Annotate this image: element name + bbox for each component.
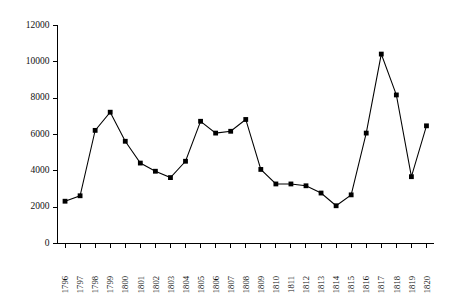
data-point-marker bbox=[379, 52, 384, 57]
x-tick-label: 1804 bbox=[181, 275, 191, 293]
x-tick-label: 1812 bbox=[301, 276, 311, 293]
data-point-marker bbox=[424, 123, 429, 128]
data-point-marker bbox=[123, 139, 128, 144]
series-group bbox=[63, 52, 429, 208]
y-tick-label: 2000 bbox=[31, 201, 50, 211]
x-tick-label: 1819 bbox=[407, 276, 417, 293]
x-tick-label: 1815 bbox=[346, 276, 356, 293]
x-tick-label: 1799 bbox=[105, 276, 115, 293]
x-axis-group: 1796179717981799180018011802180318041805… bbox=[58, 243, 435, 293]
y-tick-label: 4000 bbox=[31, 165, 50, 175]
data-point-marker bbox=[304, 183, 309, 188]
x-tick-group: 1796179717981799180018011802180318041805… bbox=[60, 243, 431, 293]
x-tick-label: 1807 bbox=[226, 275, 236, 293]
data-point-marker bbox=[198, 119, 203, 124]
data-point-marker bbox=[394, 93, 399, 98]
data-point-marker bbox=[364, 131, 369, 136]
x-tick-label: 1811 bbox=[286, 276, 296, 293]
data-point-marker bbox=[153, 169, 158, 174]
x-tick-label: 1818 bbox=[392, 276, 402, 293]
series-line-path bbox=[65, 54, 426, 206]
x-tick-label: 1802 bbox=[151, 276, 161, 293]
x-tick-label: 1820 bbox=[422, 276, 432, 293]
data-point-marker bbox=[334, 203, 339, 208]
x-tick-label: 1800 bbox=[120, 276, 130, 293]
data-point-marker bbox=[168, 175, 173, 180]
data-point-marker bbox=[228, 129, 233, 134]
y-axis-group: 020004000600080001000012000 bbox=[26, 20, 58, 248]
y-tick-label: 0 bbox=[45, 238, 50, 248]
x-tick-label: 1814 bbox=[331, 275, 341, 293]
data-point-marker bbox=[289, 182, 294, 187]
data-point-marker bbox=[138, 161, 143, 166]
x-tick-label: 1798 bbox=[90, 276, 100, 293]
data-point-marker bbox=[63, 199, 68, 204]
x-tick-label: 1808 bbox=[241, 276, 251, 293]
y-tick-group: 020004000600080001000012000 bbox=[26, 20, 58, 248]
y-tick-label: 10000 bbox=[26, 56, 50, 66]
x-tick-label: 1816 bbox=[361, 275, 371, 293]
data-point-marker bbox=[78, 193, 83, 198]
y-tick-label: 12000 bbox=[26, 20, 50, 30]
x-tick-label: 1805 bbox=[196, 276, 206, 293]
data-point-marker bbox=[243, 117, 248, 122]
x-tick-label: 1801 bbox=[136, 276, 146, 293]
x-tick-label: 1817 bbox=[376, 275, 386, 293]
data-point-marker bbox=[319, 191, 324, 196]
data-point-marker bbox=[108, 110, 113, 115]
y-tick-label: 6000 bbox=[31, 129, 50, 139]
series-marker-group bbox=[63, 52, 429, 208]
x-tick-label: 1797 bbox=[75, 275, 85, 293]
data-point-marker bbox=[258, 167, 263, 172]
data-point-marker bbox=[93, 128, 98, 133]
data-point-marker bbox=[409, 174, 414, 179]
y-tick-label: 8000 bbox=[31, 92, 50, 102]
x-tick-label: 1813 bbox=[316, 276, 326, 293]
data-point-marker bbox=[213, 131, 218, 136]
x-tick-label: 1806 bbox=[211, 275, 221, 293]
x-tick-label: 1809 bbox=[256, 276, 266, 293]
data-point-marker bbox=[349, 192, 354, 197]
chart-canvas: 020004000600080001000012000 179617971798… bbox=[0, 0, 449, 293]
x-tick-label: 1803 bbox=[166, 276, 176, 293]
x-tick-label: 1796 bbox=[60, 275, 70, 293]
data-point-marker bbox=[183, 159, 188, 164]
line-chart: 020004000600080001000012000 179617971798… bbox=[0, 0, 449, 293]
data-point-marker bbox=[273, 182, 278, 187]
x-tick-label: 1810 bbox=[271, 276, 281, 293]
